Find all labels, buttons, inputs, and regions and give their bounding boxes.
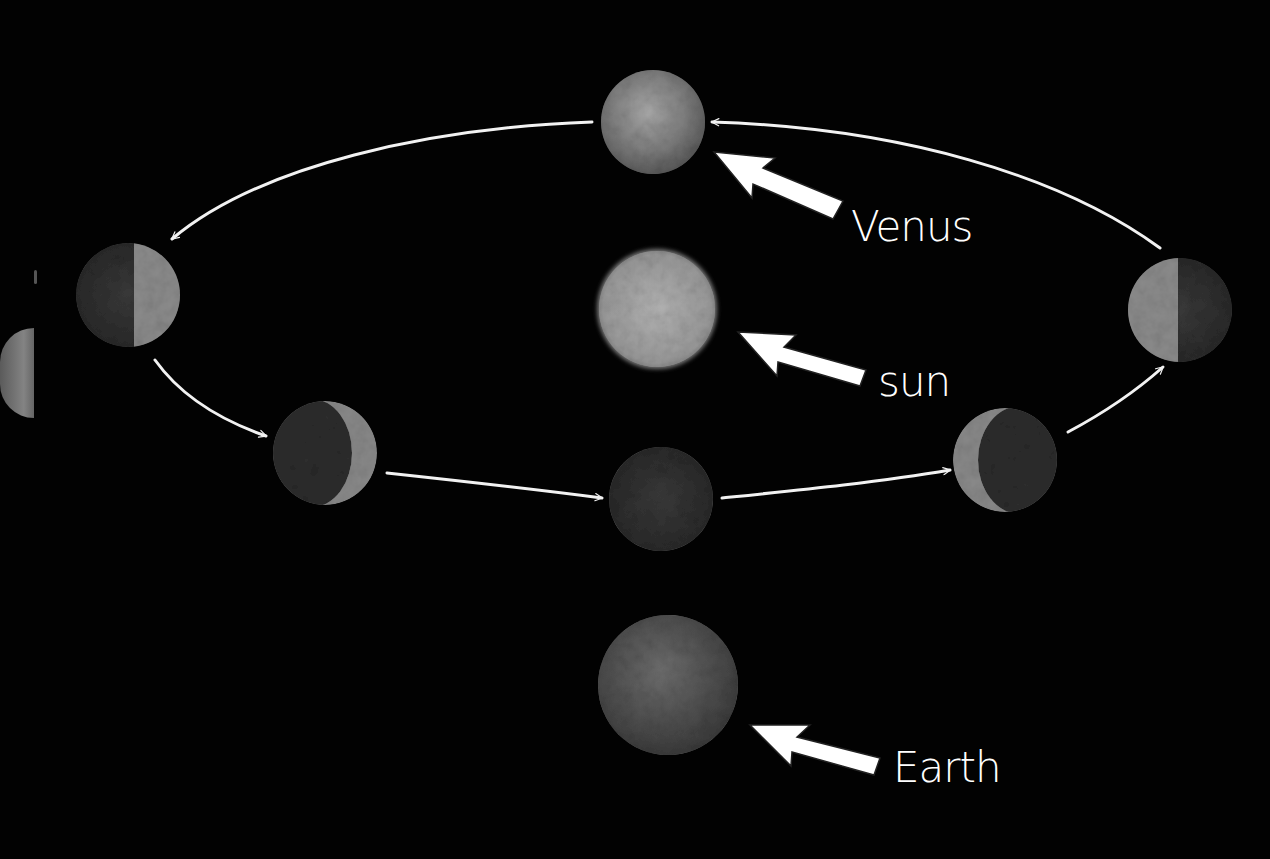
orbit-arrow-right-up [1068,367,1163,432]
sun-pointer-arrow-icon [738,332,866,386]
left-edge-speck [34,270,37,284]
venus-phases-diagram: Venus sun Earth [0,0,1270,859]
venus-label: Venus [851,202,972,251]
earth-label: Earth [893,743,1001,792]
venus-new-phase [609,447,713,551]
orbit-arrow-top-left [172,122,592,239]
venus-half-phase-left [76,243,186,347]
earth [598,615,738,755]
orbit-arrow-left-down [155,360,266,436]
venus-crescent-phase-right [953,406,1062,514]
venus-full-phase [601,70,705,174]
venus-pointer-arrow-icon [714,152,843,219]
venus-half-phase-right [1126,258,1232,362]
diagram-canvas [0,0,1270,859]
venus-crescent-phase-left [272,399,377,507]
sun [597,249,717,369]
orbit-arrow-bottom-right [722,470,950,498]
orbit-arrow-bottom-left [387,473,602,498]
earth-pointer-arrow-icon [750,725,880,775]
sun-label: sun [878,357,950,406]
